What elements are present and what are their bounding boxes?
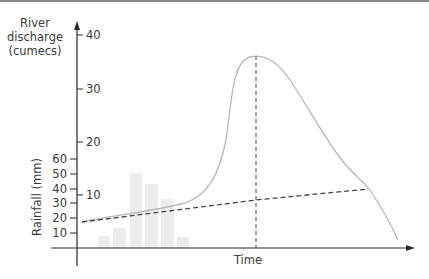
- rainfall-bar: [98, 236, 110, 248]
- discharge-axis-title-line3: (cumecs): [8, 44, 61, 58]
- discharge-axis-title-line1: River: [20, 16, 50, 30]
- hydrograph-chart: 40 30 20 10 60 50 40 30 20 10 River disc…: [0, 0, 429, 279]
- discharge-axis-title-line2: discharge: [7, 30, 63, 44]
- discharge-tick-40: 40: [86, 28, 101, 42]
- rainfall-tick-20: 20: [52, 211, 67, 225]
- rainfall-axis-title: Rainfall (mm): [30, 158, 44, 236]
- x-axis-title: Time: [233, 253, 262, 267]
- rainfall-tick-30: 30: [52, 196, 67, 210]
- rainfall-bar: [177, 237, 189, 248]
- discharge-ticks: [77, 35, 83, 195]
- rainfall-tick-50: 50: [52, 167, 67, 181]
- rainfall-ticks: [70, 159, 77, 233]
- rainfall-bars: [98, 173, 189, 248]
- discharge-tick-10: 10: [86, 188, 101, 202]
- rainfall-bar: [130, 173, 142, 248]
- x-axis-arrow-icon: [406, 245, 415, 251]
- baseflow-dashed-line: [82, 189, 368, 222]
- rainfall-tick-10: 10: [52, 226, 67, 240]
- rainfall-tick-40: 40: [52, 182, 67, 196]
- y-axis-arrow-icon: [74, 21, 80, 30]
- rainfall-tick-60: 60: [52, 152, 67, 166]
- rainfall-bar: [113, 228, 126, 248]
- discharge-tick-20: 20: [86, 135, 101, 149]
- rainfall-bar: [145, 184, 158, 248]
- discharge-tick-30: 30: [86, 82, 101, 96]
- storm-hydrograph-line: [82, 56, 398, 240]
